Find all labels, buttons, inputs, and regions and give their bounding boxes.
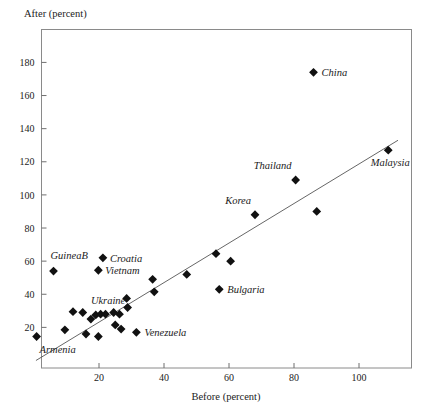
y-tick-label: 100 [20, 190, 35, 201]
data-point-marker [60, 325, 69, 334]
x-tick-label: 20 [94, 372, 104, 383]
data-point-label: GuineaB [51, 250, 89, 261]
y-tick-label: 80 [25, 223, 35, 234]
y-tick-label: 60 [25, 256, 35, 267]
y-tick-label: 140 [20, 123, 35, 134]
x-tick-label: 100 [352, 372, 367, 383]
data-point-marker [182, 270, 191, 279]
data-point-marker [226, 257, 235, 266]
x-tick-label: 80 [289, 372, 299, 383]
data-point-marker [94, 332, 103, 341]
data-point-label: Venezuela [144, 327, 186, 338]
data-point-marker [150, 287, 159, 296]
x-axis-ticks: 20406080100 [94, 363, 367, 383]
data-points [32, 68, 392, 341]
data-point-marker [32, 332, 41, 341]
data-point-marker [251, 210, 260, 219]
data-point-label: Thailand [254, 160, 293, 171]
data-point-label: Malaysia [370, 157, 410, 168]
data-point-marker [384, 146, 393, 155]
data-point-marker [78, 308, 87, 317]
data-point-marker [101, 310, 110, 319]
y-tick-label: 120 [20, 156, 35, 167]
data-point-marker [69, 307, 78, 316]
data-point-label: Korea [224, 195, 251, 206]
data-point-label: Armenia [39, 344, 76, 355]
scatter-chart: After (percent) Before (percent) 2040608… [0, 0, 440, 410]
y-axis-title: After (percent) [24, 8, 87, 20]
data-point-marker [148, 275, 157, 284]
y-tick-label: 20 [25, 322, 35, 333]
data-point-marker [291, 176, 300, 185]
y-axis-ticks: 20406080100120140160180 [20, 57, 47, 333]
data-point-marker [312, 207, 321, 216]
y-tick-label: 40 [25, 289, 35, 300]
data-point-marker [99, 253, 108, 262]
plot-canvas: After (percent) Before (percent) 2040608… [0, 0, 440, 410]
x-tick-label: 40 [159, 372, 169, 383]
data-point-marker [309, 68, 318, 77]
data-point-label: Ukraine [91, 295, 126, 306]
data-point-marker [49, 267, 58, 276]
data-point-label: Bulgaria [227, 284, 264, 295]
data-point-marker [212, 249, 221, 258]
data-point-label: Vietnam [105, 265, 140, 276]
y-tick-label: 180 [20, 57, 35, 68]
y-tick-label: 160 [20, 90, 35, 101]
data-point-marker [132, 328, 141, 337]
data-point-label: Croatia [110, 253, 142, 264]
data-point-marker [215, 285, 224, 294]
data-point-label: China [322, 67, 348, 78]
x-tick-label: 60 [224, 372, 234, 383]
x-axis-title: Before (percent) [191, 391, 261, 403]
data-point-marker [82, 330, 91, 339]
data-point-marker [94, 266, 103, 275]
